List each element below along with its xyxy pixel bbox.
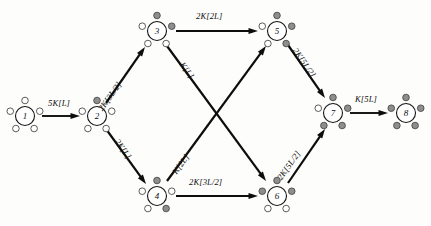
edge-2-to-3 [106,47,145,103]
ligand-site-empty-icon [31,125,38,132]
edge-1-to-2 [42,113,80,119]
ligand-site-occupied-icon [163,205,170,212]
ligand-site-occupied-icon [288,188,295,195]
node-label: 1 [23,111,28,121]
ligand-site-occupied-icon [412,122,419,129]
ligand-site-occupied-icon [330,94,337,101]
ligand-site-occupied-icon [283,40,290,47]
edge-shaft [288,135,321,183]
ligand-site-empty-icon [22,97,29,104]
ligand-site-empty-icon [315,105,322,112]
ligand-site-occupied-icon [394,122,401,129]
edge-6-to-7 [288,129,325,183]
node-7: 7 [315,94,351,129]
ligand-site-empty-icon [265,205,272,212]
edge-4-to-6 [176,193,258,199]
edge-2-to-4 [106,129,146,184]
node-2: 2 [79,97,115,132]
arrowhead-icon [249,193,259,199]
arrowhead-icon [71,113,81,119]
ligand-site-empty-icon [168,188,175,195]
ligand-site-empty-icon [13,125,20,132]
edge-shaft [167,52,262,181]
ligand-site-empty-icon [7,108,14,115]
node-label: 8 [404,108,409,118]
ligand-site-empty-icon [108,108,115,115]
ligand-site-occupied-icon [154,177,161,184]
node-label: 5 [275,26,280,36]
ligand-site-empty-icon [103,125,110,132]
ligand-site-occupied-icon [417,105,424,112]
ligand-site-occupied-icon [274,12,281,19]
node-label: 3 [154,26,160,36]
ligand-site-occupied-icon [344,105,351,112]
network-canvas: 12345678 [0,0,431,226]
arrowhead-icon [379,110,389,116]
edge-7-to-8 [350,110,388,116]
ligand-site-occupied-icon [154,12,161,19]
ligand-site-occupied-icon [168,23,175,30]
edge-shaft [167,46,262,175]
node-label: 6 [275,191,280,201]
ligand-site-empty-icon [36,108,43,115]
edge-3-to-5 [176,28,258,34]
edge-5-to-7 [288,45,325,98]
node-8: 8 [388,94,424,129]
arrowhead-icon [249,28,259,34]
ligand-site-empty-icon [79,108,86,115]
node-1: 1 [7,97,43,132]
ligand-site-occupied-icon [288,23,295,30]
node-5: 5 [259,12,295,47]
ligand-site-occupied-icon [94,97,101,104]
node-label: 7 [331,108,336,118]
ligand-site-occupied-icon [403,94,410,101]
ligand-site-empty-icon [145,40,152,47]
ligand-site-empty-icon [139,23,146,30]
ligand-site-occupied-icon [259,188,266,195]
node-label: 2 [95,111,100,121]
edge-shaft [106,129,142,178]
ligand-site-occupied-icon [321,122,328,129]
ligand-site-empty-icon [259,23,266,30]
ligand-site-empty-icon [163,40,170,47]
ligand-site-empty-icon [145,205,152,212]
ligand-site-occupied-icon [274,177,281,184]
node-label: 4 [155,191,160,201]
ligand-site-empty-icon [265,40,272,47]
ligand-site-empty-icon [139,188,146,195]
ligand-site-occupied-icon [339,122,346,129]
ligand-site-empty-icon [85,125,92,132]
edge-shaft [288,45,321,92]
ligand-site-empty-icon [283,205,290,212]
edge-shaft [106,53,141,103]
reaction-network-figure: 12345678 5K[L]2K[3L/2]2K[L]2K[2L]K[L]K[2… [0,0,431,226]
node-3: 3 [139,12,175,47]
ligand-site-occupied-icon [388,105,395,112]
